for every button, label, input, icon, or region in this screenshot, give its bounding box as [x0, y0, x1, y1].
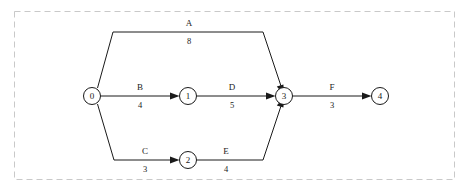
edge-b: B 4: [101, 82, 180, 110]
edge-e-line: [197, 106, 282, 160]
edge-a-duration: 8: [187, 36, 191, 46]
edge-f-label: F: [329, 82, 334, 92]
edge-d-label: D: [229, 82, 236, 92]
edge-c: C 3: [98, 104, 180, 174]
node-2[interactable]: 2: [180, 152, 197, 169]
edge-f-duration: 3: [330, 100, 334, 110]
edge-d-arrowhead: [266, 92, 276, 99]
node-3-label: 3: [282, 91, 287, 101]
edge-c-line: [98, 104, 173, 160]
node-0-label: 0: [90, 91, 95, 101]
edge-d: D 5: [197, 82, 276, 110]
edge-e-label: E: [223, 146, 229, 156]
edge-e: E 4: [197, 97, 285, 175]
node-1[interactable]: 1: [180, 88, 197, 105]
node-4-label: 4: [378, 91, 383, 101]
node-4[interactable]: 4: [372, 88, 389, 105]
network-diagram: A 8 B 4 C 3 D 5 E 4: [0, 0, 466, 189]
node-0[interactable]: 0: [84, 88, 101, 105]
edge-a-label: A: [186, 18, 193, 28]
node-3[interactable]: 3: [276, 88, 293, 105]
edge-a: A 8: [98, 18, 285, 96]
edge-e-duration: 4: [224, 164, 229, 174]
diagram-canvas: A 8 B 4 C 3 D 5 E 4: [0, 0, 466, 189]
node-1-label: 1: [186, 91, 191, 101]
edge-f-arrowhead: [362, 92, 372, 99]
node-2-label: 2: [186, 155, 191, 165]
edge-b-arrowhead: [170, 92, 180, 99]
edge-c-arrowhead: [170, 156, 180, 163]
edge-c-duration: 3: [143, 164, 147, 174]
edge-f: F 3: [293, 82, 372, 110]
edge-d-duration: 5: [230, 100, 234, 110]
edge-c-label: C: [142, 146, 148, 156]
edge-b-duration: 4: [138, 100, 143, 110]
edge-b-label: B: [137, 82, 143, 92]
